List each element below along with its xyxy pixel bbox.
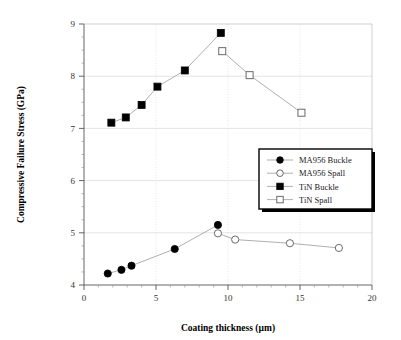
y-tick-label: 9: [71, 19, 76, 29]
y-tick-label: 8: [71, 71, 76, 81]
scatter-plot: 45678905101520Coating thickness (µm)Comp…: [0, 0, 401, 340]
marker-open-square: [298, 109, 305, 116]
x-tick-label: 0: [82, 293, 87, 303]
legend-label: MA956 Buckle: [299, 155, 352, 165]
x-tick-label: 10: [224, 293, 234, 303]
marker-filled-circle: [128, 262, 135, 269]
legend-label: MA956 Spall: [299, 168, 346, 178]
y-axis-title: Compressive Failure Stress (GPa): [16, 86, 27, 223]
legend-item[interactable]: TiN Buckle: [267, 182, 339, 192]
marker-filled-circle: [214, 221, 221, 228]
marker-filled-square: [138, 101, 145, 108]
legend-item[interactable]: TiN Spall: [267, 195, 333, 205]
marker-filled-circle: [118, 266, 125, 273]
marker-filled-square: [154, 83, 161, 90]
marker-filled-square: [122, 114, 129, 121]
legend-label: TiN Buckle: [299, 182, 339, 192]
marker-open-circle: [214, 230, 221, 237]
marker-filled-circle: [277, 157, 284, 164]
marker-filled-square: [277, 183, 283, 189]
y-tick-label: 7: [71, 124, 76, 134]
legend-item[interactable]: MA956 Buckle: [267, 155, 352, 165]
legend-label: TiN Spall: [299, 195, 333, 205]
marker-filled-square: [181, 67, 188, 74]
legend-item[interactable]: MA956 Spall: [267, 168, 346, 178]
x-tick-label: 5: [154, 293, 159, 303]
x-axis-title: Coating thickness (µm): [181, 323, 275, 334]
marker-filled-circle: [171, 245, 178, 252]
y-tick-label: 4: [71, 280, 76, 290]
x-tick-label: 15: [296, 293, 306, 303]
chart-figure: 45678905101520Coating thickness (µm)Comp…: [0, 0, 401, 340]
marker-open-circle: [286, 240, 293, 247]
marker-open-square: [219, 48, 226, 55]
y-tick-label: 6: [71, 176, 76, 186]
marker-open-circle: [232, 236, 239, 243]
marker-open-square: [246, 72, 253, 79]
x-tick-label: 20: [368, 293, 378, 303]
marker-open-circle: [335, 244, 342, 251]
marker-open-circle: [277, 170, 284, 177]
marker-filled-square: [108, 119, 115, 126]
marker-filled-square: [217, 29, 224, 36]
y-tick-label: 5: [71, 228, 76, 238]
legend: MA956 BuckleMA956 SpallTiN BuckleTiN Spa…: [259, 149, 375, 212]
marker-open-square: [277, 196, 283, 202]
marker-filled-circle: [104, 270, 111, 277]
